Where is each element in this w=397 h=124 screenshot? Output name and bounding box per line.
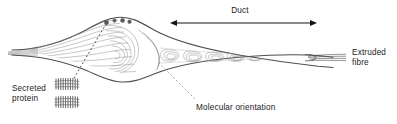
molecular-orientation-leader-line [159, 63, 196, 100]
protein-coil-icon [55, 96, 79, 107]
vesicle-icon [121, 18, 125, 22]
secreted-protein-glyphs [55, 78, 79, 107]
silk-gland-diagram: Duct Extruded fibre Secreted protein Mol… [0, 0, 397, 124]
vesicle-icon [128, 20, 132, 24]
molecular-orientation-contours [18, 20, 309, 82]
vesicle-icon [113, 19, 116, 22]
duct-label: Duct [231, 6, 249, 16]
extruded-fibre-lines [305, 54, 346, 61]
secreted-protein-leader-line [74, 24, 106, 78]
molecular-orientation-label: Molecular orientation [196, 103, 275, 113]
extruded-fibre-label: Extruded fibre [352, 48, 386, 68]
secreted-protein-label: Secreted protein [12, 84, 46, 104]
protein-coil-icon [55, 78, 79, 89]
vesicle-icon [104, 20, 108, 24]
